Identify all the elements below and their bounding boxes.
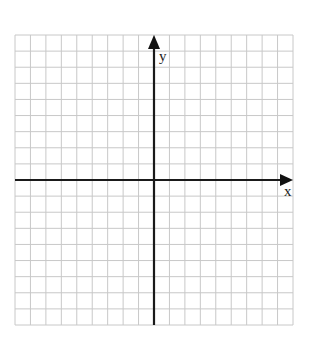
- x-axis-label: x: [284, 183, 292, 199]
- coordinate-plane: x y: [0, 0, 312, 346]
- y-axis-label: y: [159, 48, 167, 64]
- y-axis-arrow-icon: [148, 35, 160, 49]
